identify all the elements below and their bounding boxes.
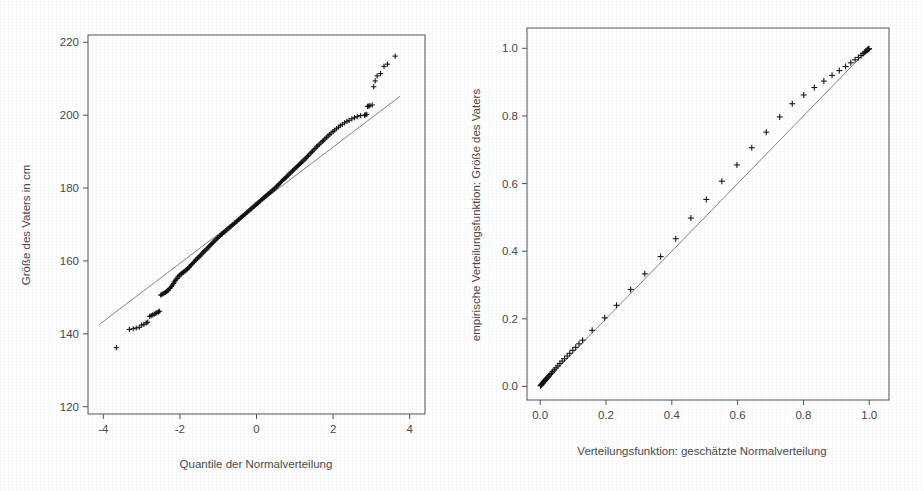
panel-qq-plot: -4-2024120140160180200220 Quantile der N… (0, 0, 462, 491)
pp-plot-y-axis-title: empirische Verteilungsfunktion: Größe de… (470, 89, 482, 342)
qq-plot-x-axis-title: Quantile der Normalverteilung (180, 458, 333, 470)
y-tick-label: 0.2 (502, 313, 518, 325)
x-tick-label: 0.4 (664, 409, 681, 421)
y-tick-label: 0.0 (502, 380, 518, 392)
y-tick-label: 180 (60, 182, 79, 194)
y-tick-label: 120 (60, 401, 79, 413)
data-series (114, 54, 398, 351)
x-tick-label: 0.6 (730, 409, 746, 421)
x-tick-label: 0.8 (795, 409, 811, 421)
y-tick-label: 0.8 (502, 110, 518, 122)
x-tick-label: 4 (406, 423, 413, 435)
qq-plot-y-axis-title: Größe des Vaters in cm (20, 165, 32, 286)
pp-plot-svg: 0.00.20.40.60.81.00.00.20.40.60.81.0 Ver… (462, 0, 924, 491)
pp-plot-x-axis-title: Verteilungsfunktion: geschätzte Normalve… (577, 445, 826, 457)
x-tick-label: 0.2 (598, 409, 614, 421)
x-tick-label: 0.0 (532, 409, 548, 421)
panel-pp-plot: 0.00.20.40.60.81.00.00.20.40.60.81.0 Ver… (462, 0, 924, 491)
reference-line (540, 48, 869, 386)
qq-plot-svg: -4-2024120140160180200220 Quantile der N… (0, 0, 462, 491)
x-tick-label: 2 (330, 423, 336, 435)
figure-container: -4-2024120140160180200220 Quantile der N… (0, 0, 924, 491)
y-tick-label: 1.0 (502, 42, 518, 54)
y-tick-label: 160 (60, 255, 79, 267)
y-tick-label: 0.6 (502, 178, 518, 190)
x-tick-label: -2 (175, 423, 185, 435)
x-tick-label: 1.0 (861, 409, 877, 421)
plot-frame (88, 35, 425, 414)
x-tick-label: -4 (98, 423, 109, 435)
y-tick-label: 0.4 (502, 245, 519, 257)
y-tick-label: 200 (60, 109, 79, 121)
y-tick-label: 220 (60, 36, 79, 48)
y-tick-label: 140 (60, 328, 79, 340)
x-tick-label: 0 (253, 423, 259, 435)
